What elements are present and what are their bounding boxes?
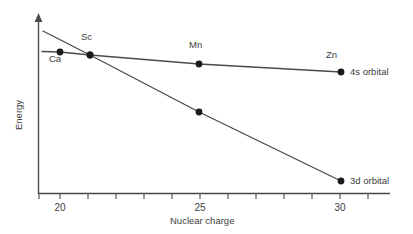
data-point-4s-mn (196, 61, 203, 68)
point-label-sc: Sc (81, 32, 92, 42)
x-axis (38, 194, 390, 200)
series-label-4s-orbital: 4s orbital (350, 67, 389, 77)
point-label-mn: Mn (189, 40, 202, 50)
series-3d-orbital (43, 31, 344, 184)
data-point-4s-zn (338, 69, 345, 76)
y-axis-arrow-icon (35, 13, 43, 22)
data-point-3d-zn (338, 178, 345, 185)
series-4s-orbital (42, 49, 344, 76)
x-tick-label-20: 20 (50, 203, 70, 213)
chart-plot-area (0, 0, 413, 234)
x-tick-label-25: 25 (190, 203, 210, 213)
x-tick-label-30: 30 (330, 203, 350, 213)
data-point-3d-sc (87, 52, 94, 59)
point-label-zn: Zn (326, 50, 337, 60)
data-point-3d-mn (196, 109, 203, 116)
x-axis-title: Nuclear charge (170, 216, 234, 226)
y-axis (35, 13, 43, 194)
y-axis-title: Energy (14, 100, 24, 130)
point-label-ca: Ca (49, 54, 61, 64)
series-label-3d-orbital: 3d orbital (350, 176, 389, 186)
chart-figure: Ca Sc Mn Zn 4s orbital 3d orbital 20 25 … (0, 0, 413, 234)
x-axis-ticks (39, 194, 368, 200)
